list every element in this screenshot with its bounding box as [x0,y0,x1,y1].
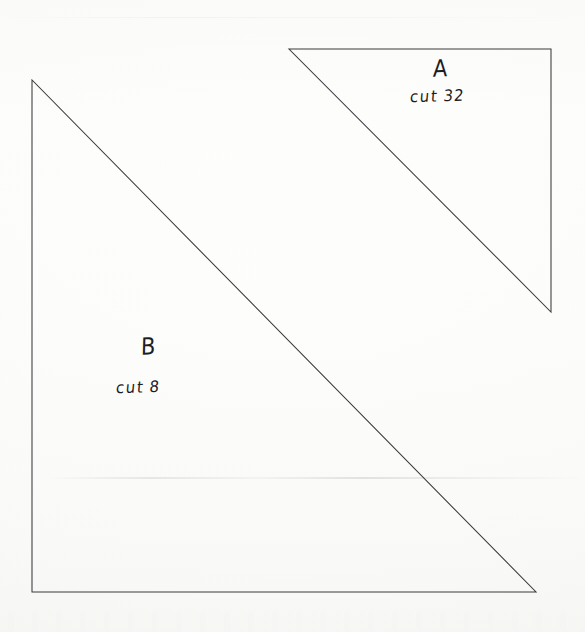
piece-b-cut-count: 8 [144,377,161,397]
piece-a-cut-count: 32 [438,86,466,106]
piece-a-cut-label: cut32 [409,86,465,107]
scanned-page: A cut32 B cut8 [0,0,585,632]
piece-a-letter-label: A [433,55,449,83]
triangle-piece-b [32,80,536,592]
piece-b-cut-word: cut [115,378,145,398]
piece-a-cut-word: cut [409,87,439,107]
piece-b-letter-label: B [141,333,157,361]
template-drawing [0,0,585,632]
piece-b-cut-label: cut8 [115,377,161,398]
